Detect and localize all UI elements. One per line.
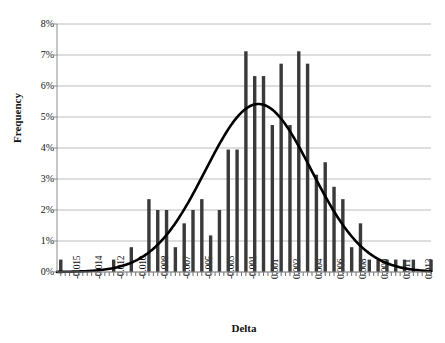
histogram-bar (130, 247, 133, 272)
histogram-bar (235, 150, 238, 272)
histogram-bar (297, 51, 300, 272)
histogram-bar (368, 260, 371, 272)
histogram-bar (350, 247, 353, 272)
histogram-bar (315, 175, 318, 272)
x-axis-tick-marks (61, 272, 431, 276)
frequency-histogram-chart: Frequency Delta 8%7%6%5%4%3%2%1%0% -0.01… (0, 0, 445, 343)
histogram-bar (182, 223, 185, 272)
histogram-bar (174, 247, 177, 272)
histogram-bar (403, 260, 406, 272)
histogram-bar (332, 187, 335, 272)
gridlines (57, 24, 431, 272)
histogram-bar (59, 260, 62, 272)
histogram-bars (59, 51, 433, 272)
histogram-bar (147, 199, 150, 272)
histogram-bar (191, 210, 194, 272)
histogram-bar (324, 162, 327, 272)
y-axis-tick-marks (53, 24, 57, 272)
histogram-bar (288, 125, 291, 272)
histogram-bar (227, 150, 230, 272)
histogram-bar (218, 210, 221, 272)
histogram-bar (271, 125, 274, 272)
histogram-bar (244, 51, 247, 272)
histogram-bar (376, 260, 379, 272)
normal-fit-curve (57, 104, 431, 272)
histogram-bar (209, 235, 212, 272)
histogram-bar (279, 64, 282, 272)
histogram-bar (112, 260, 115, 272)
histogram-bar (341, 199, 344, 272)
plot-area (0, 0, 445, 343)
histogram-bar (200, 199, 203, 272)
histogram-bar (156, 210, 159, 272)
histogram-bar (165, 210, 168, 272)
